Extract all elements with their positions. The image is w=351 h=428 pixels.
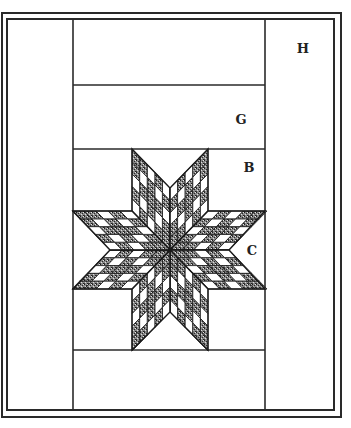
label-h: H	[297, 41, 309, 56]
label-g: G	[235, 112, 246, 127]
quilt-diagram: H G B C	[0, 0, 351, 428]
lone-star-block	[72, 149, 267, 351]
label-c: C	[247, 243, 257, 258]
label-b: B	[244, 160, 255, 175]
